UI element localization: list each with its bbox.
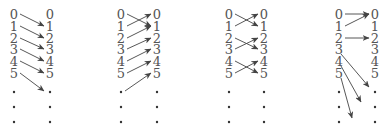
left-ellipsis-dot xyxy=(13,121,15,123)
diagram-shift-down: 012345012345 xyxy=(117,7,161,123)
diagram-pair-swap: 012345012345 xyxy=(225,7,268,123)
arrow-5-to-6 xyxy=(20,73,44,91)
arrow-2-to-1 xyxy=(127,26,151,38)
left-label-5: 5 xyxy=(10,66,18,81)
right-ellipsis-dot xyxy=(263,106,265,108)
left-label-5: 5 xyxy=(225,66,233,81)
right-ellipsis-dot xyxy=(156,121,158,123)
right-ellipsis-dot xyxy=(156,106,158,108)
right-label-5: 5 xyxy=(46,66,54,81)
arrow-3-to-2 xyxy=(127,38,151,49)
right-ellipsis-dot xyxy=(49,106,51,108)
arrow-1-to-0 xyxy=(345,14,369,26)
left-ellipsis-dot xyxy=(120,121,122,123)
arrow-5-to-4 xyxy=(127,61,151,73)
right-ellipsis-dot xyxy=(263,91,265,93)
arrow-0-to-1 xyxy=(20,14,44,26)
right-ellipsis-dot xyxy=(374,121,376,123)
arrow-5-to-8 xyxy=(341,78,352,118)
arrow-6-to-5 xyxy=(125,73,151,91)
left-ellipsis-dot xyxy=(228,121,230,123)
right-ellipsis-dot xyxy=(374,106,376,108)
left-ellipsis-dot xyxy=(228,91,230,93)
right-label-5: 5 xyxy=(260,66,268,81)
diagram-shift-up: 012345012345 xyxy=(10,7,54,123)
left-label-5: 5 xyxy=(117,66,125,81)
left-ellipsis-dot xyxy=(338,91,340,93)
left-ellipsis-dot xyxy=(13,91,15,93)
diagram-collapse-and-escape: 012345012345 xyxy=(335,7,379,123)
right-label-5: 5 xyxy=(153,66,161,81)
arrow-3-to-6 xyxy=(341,54,369,87)
left-ellipsis-dot xyxy=(338,121,340,123)
left-ellipsis-dot xyxy=(13,106,15,108)
right-label-5: 5 xyxy=(371,66,379,81)
right-ellipsis-dot xyxy=(49,121,51,123)
left-ellipsis-dot xyxy=(338,106,340,108)
diagram-canvas: 0123450123450123450123450123450123450123… xyxy=(0,0,392,134)
arrow-4-to-3 xyxy=(127,49,151,61)
arrow-2-to-3 xyxy=(20,38,44,49)
arrow-4-to-5 xyxy=(20,61,44,73)
left-ellipsis-dot xyxy=(120,91,122,93)
left-ellipsis-dot xyxy=(120,106,122,108)
function-diagrams: 0123450123450123450123450123450123450123… xyxy=(10,7,379,123)
right-ellipsis-dot xyxy=(263,121,265,123)
right-ellipsis-dot xyxy=(374,91,376,93)
right-ellipsis-dot xyxy=(156,91,158,93)
arrow-3-to-4 xyxy=(20,49,44,61)
arrow-4-to-7 xyxy=(341,66,361,102)
arrow-1-to-2 xyxy=(20,26,44,38)
left-ellipsis-dot xyxy=(228,106,230,108)
right-ellipsis-dot xyxy=(49,91,51,93)
